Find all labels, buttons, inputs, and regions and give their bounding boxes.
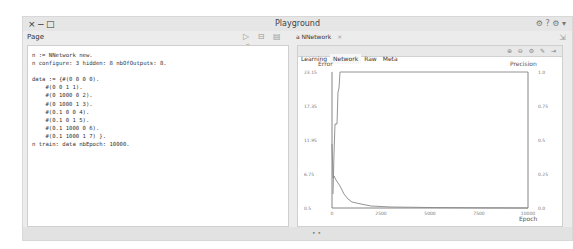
y-right-ticks: 0.0 0.25 0.5 0.75 1.0 <box>538 70 548 211</box>
code-editor[interactable]: n := NNetwork new. n configure: 3 hidden… <box>27 45 289 227</box>
inspector-view: LearningNetworkRawMeta ⊕ ⊖ ⚙ ✎ ⇥ Error P… <box>297 45 563 227</box>
svg-text:2500: 2500 <box>375 211 387 216</box>
svg-text:11.95: 11.95 <box>304 138 317 143</box>
svg-text:23.15: 23.15 <box>304 70 317 75</box>
zoom-tools-icons[interactable]: ⊕ ⊖ ⚙ ✎ ⇥ <box>507 47 558 54</box>
inspector-pane: a NNetwork× ⇲ LearningNetworkRawMeta ⊕ ⊖… <box>293 31 573 229</box>
status-bar: • • <box>23 227 572 240</box>
svg-text:0: 0 <box>331 211 334 216</box>
expand-icon[interactable]: ⇲ <box>559 33 566 42</box>
svg-text:0.75: 0.75 <box>538 104 548 109</box>
title-bar[interactable]: × − □ Playground ⚙ ? ⚙ ▾ <box>23 17 572 31</box>
svg-text:10000: 10000 <box>521 211 535 216</box>
window-menu-icons[interactable]: ⚙ ? ⚙ ▾ <box>536 18 566 30</box>
x-ticks: 0 2500 5000 7500 10000 <box>331 211 536 216</box>
svg-text:1.0: 1.0 <box>538 70 545 75</box>
learning-chart: Error Precision Epoch 0.5 6.75 11.95 17.… <box>298 58 562 226</box>
svg-text:6.75: 6.75 <box>304 172 314 177</box>
svg-text:0.5: 0.5 <box>538 138 545 143</box>
svg-text:0.25: 0.25 <box>538 172 548 177</box>
svg-text:7500: 7500 <box>473 211 485 216</box>
svg-text:0.5: 0.5 <box>304 206 311 211</box>
inspector-tabs: LearningNetworkRawMeta ⊕ ⊖ ⚙ ✎ ⇥ <box>298 46 562 57</box>
precision-series <box>333 72 528 194</box>
window-title: Playground <box>23 18 572 30</box>
inspector-doc-tab[interactable]: a NNetwork× <box>296 33 342 40</box>
doc-tab-label: a NNetwork <box>296 33 331 40</box>
playground-window: × − □ Playground ⚙ ? ⚙ ▾ Page ▷ ⊟ ▤ ⇥ n … <box>22 16 573 241</box>
error-series <box>332 144 528 208</box>
page-tab[interactable]: Page <box>27 33 44 41</box>
pane-splitter-handle[interactable]: • • <box>312 229 321 236</box>
svg-text:5000: 5000 <box>424 211 436 216</box>
y-left-ticks: 0.5 6.75 11.95 17.35 23.15 <box>304 70 317 211</box>
y-right-label: Precision <box>510 60 537 67</box>
code-text[interactable]: n := NNetwork new. n configure: 3 hidden… <box>32 51 284 148</box>
close-icon[interactable]: × <box>337 33 342 40</box>
playground-pane: Page ▷ ⊟ ▤ ⇥ n := NNetwork new. n config… <box>23 31 293 229</box>
svg-text:0.0: 0.0 <box>538 206 545 211</box>
svg-text:17.35: 17.35 <box>304 104 317 109</box>
x-label: Epoch <box>519 215 538 223</box>
y-left-label: Error <box>318 60 333 67</box>
